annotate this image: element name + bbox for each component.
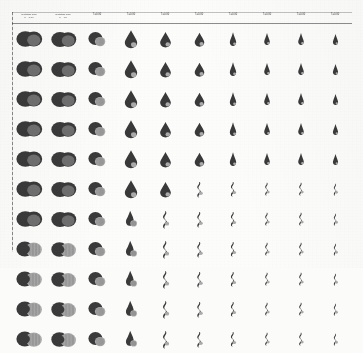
column-header: T=0.00 [284, 12, 318, 23]
morphology-shape-round [84, 176, 110, 202]
morphology-shape-spiral [225, 211, 241, 227]
morphology-shape-spiral [156, 330, 175, 349]
morphology-shape-round [84, 326, 110, 352]
morphology-shape-lobed [14, 54, 44, 84]
morphology-shape-teardrop [120, 178, 142, 200]
morphology-cell [46, 84, 80, 114]
morphology-shape-cone [260, 62, 274, 76]
morphology-cell [318, 54, 352, 84]
morphology-cell [12, 84, 46, 114]
morphology-shape-spiral [156, 300, 175, 319]
column-header-line2: n = 0.00 [24, 16, 33, 19]
morphology-shape-cone [225, 151, 241, 167]
column-header-line1: T=0.00 [263, 13, 271, 16]
morphology-cell [114, 174, 148, 204]
morphology-cell [318, 114, 352, 144]
morphology-cell [182, 324, 216, 353]
morphology-cell [250, 204, 284, 234]
morphology-cell [182, 204, 216, 234]
morphology-cell [148, 234, 182, 264]
morphology-shape-teardrop [120, 88, 142, 110]
morphology-shape-round [84, 146, 110, 172]
morphology-cell [216, 144, 250, 174]
morphology-cell [148, 54, 182, 84]
morphology-shape-spiral [329, 303, 342, 316]
morphology-cell [318, 324, 352, 353]
morphology-shape-striped [49, 235, 78, 264]
morphology-shape-lobed [49, 115, 78, 144]
morphology-shape-teardrop [191, 31, 208, 48]
morphology-shape-spiral [260, 332, 274, 346]
morphology-cell [318, 174, 352, 204]
morphology-shape-cone [260, 152, 274, 166]
morphology-shape-spiral [329, 273, 342, 286]
morphology-cell [46, 204, 80, 234]
morphology-shape-lobed [49, 55, 78, 84]
morphology-cell [12, 24, 46, 54]
morphology-shape-cone [225, 31, 241, 47]
morphology-shape-spiral [225, 301, 241, 317]
morphology-cell [46, 24, 80, 54]
morphology-shape-cone [294, 62, 308, 76]
figure-panel: Rotating fluid n = 0.00 Rotating fluid n… [12, 10, 352, 260]
morphology-cell [250, 174, 284, 204]
morphology-shape-teardrop [156, 180, 175, 199]
morphology-cell [148, 144, 182, 174]
morphology-shape-cone [294, 122, 308, 136]
morphology-cell [284, 174, 318, 204]
morphology-cell [46, 54, 80, 84]
morphology-cell [12, 324, 46, 353]
morphology-cell [46, 234, 80, 264]
morphology-cell [250, 144, 284, 174]
morphology-shape-striped [14, 324, 44, 353]
morphology-cell [250, 234, 284, 264]
morphology-cell [182, 54, 216, 84]
morphology-shape-teardrop [120, 58, 142, 80]
morphology-cell [12, 234, 46, 264]
morphology-shape-drop [120, 208, 142, 230]
morphology-cell [12, 144, 46, 174]
morphology-cell [46, 294, 80, 324]
morphology-cell [284, 54, 318, 84]
column-header: T=0.00 [182, 12, 216, 23]
morphology-shape-spiral [191, 181, 208, 198]
morphology-shape-cone [329, 93, 342, 106]
morphology-shape-round [84, 56, 110, 82]
morphology-shape-spiral [156, 210, 175, 229]
column-header: T=0.00 [318, 12, 352, 23]
morphology-shape-teardrop [156, 90, 175, 109]
morphology-shape-spiral [260, 242, 274, 256]
morphology-cell [80, 294, 114, 324]
morphology-cell [148, 24, 182, 54]
morphology-cell [114, 84, 148, 114]
morphology-cell [114, 54, 148, 84]
morphology-cell [80, 54, 114, 84]
column-header: T=0.00 [216, 12, 250, 23]
morphology-shape-round [84, 236, 110, 262]
morphology-shape-striped [49, 295, 78, 324]
morphology-shape-striped [14, 264, 44, 294]
morphology-cell [12, 54, 46, 84]
morphology-shape-spiral [260, 272, 274, 286]
morphology-shape-drop [120, 298, 142, 320]
morphology-cell [284, 24, 318, 54]
morphology-cell [46, 144, 80, 174]
morphology-shape-spiral [156, 270, 175, 289]
morphology-shape-round [84, 206, 110, 232]
column-header-line1: T=0.00 [229, 13, 237, 16]
morphology-cell [148, 84, 182, 114]
morphology-cell [250, 324, 284, 353]
morphology-cell [148, 264, 182, 294]
morphology-shape-spiral [329, 213, 342, 226]
morphology-cell [148, 204, 182, 234]
morphology-cell [284, 324, 318, 353]
morphology-shape-lobed [14, 174, 44, 204]
morphology-cell [80, 204, 114, 234]
column-header: T=0.00 [250, 12, 284, 23]
morphology-shape-cone [260, 122, 274, 136]
column-header: Rotating fluid n = 0.00 [12, 12, 46, 23]
morphology-shape-teardrop [191, 151, 208, 168]
morphology-shape-spiral [191, 241, 208, 258]
morphology-cell [250, 54, 284, 84]
morphology-shape-spiral [260, 302, 274, 316]
